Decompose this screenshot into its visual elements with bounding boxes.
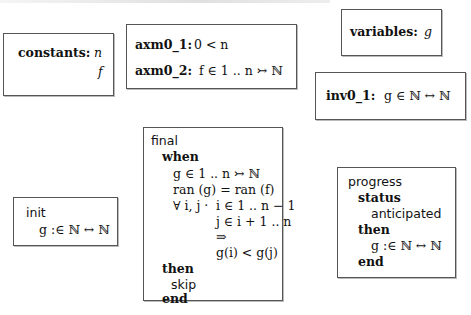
progress-event-name: progress xyxy=(348,174,402,189)
init-event-name: init xyxy=(26,205,46,220)
final-guard-3-quantifier: ∀ i, j · xyxy=(173,198,208,213)
progress-status-value: anticipated xyxy=(371,206,441,221)
final-guard-1: g ∈ 1 .. n ↣ ℕ xyxy=(173,166,260,181)
progress-then-keyword: then xyxy=(358,222,390,237)
variables-label: variables: xyxy=(350,24,418,39)
variable-g: g xyxy=(424,24,432,39)
invariant-1-expr: g ∈ ℕ ↔ ℕ xyxy=(384,88,450,103)
progress-end-keyword: end xyxy=(358,254,384,269)
final-event-box: final when g ∈ 1 .. n ↣ ℕ ran (g) = ran … xyxy=(143,127,283,301)
init-event-box: init g :∈ ℕ ↔ ℕ xyxy=(13,197,118,246)
axiom-2-expr: f ∈ 1 .. n ↣ ℕ xyxy=(199,63,283,78)
final-guard-3-implies: ⇒ xyxy=(216,229,226,244)
final-when-keyword: when xyxy=(162,149,199,164)
variables-box: variables: g xyxy=(341,9,442,56)
invariants-box: inv0_1: g ∈ ℕ ↔ ℕ xyxy=(315,72,466,120)
axiom-1-expr: 0 < n xyxy=(194,37,228,52)
constants-label: constants: xyxy=(18,45,90,60)
constant-f: f xyxy=(98,64,103,79)
final-guard-3-range-j: j ∈ i + 1 .. n xyxy=(216,214,291,229)
progress-event-box: progress status anticipated then g :∈ ℕ … xyxy=(337,167,456,278)
top-edge-artifact xyxy=(0,0,330,3)
final-guard-3-range-i: i ∈ 1 .. n − 1 xyxy=(216,198,295,213)
final-event-name: final xyxy=(151,133,178,148)
final-event-action: skip xyxy=(171,277,196,292)
final-end-keyword: end xyxy=(162,291,188,306)
constants-box: constants: n f xyxy=(3,33,114,96)
axioms-box: axm0_1: 0 < n axm0_2: f ∈ 1 .. n ↣ ℕ xyxy=(126,24,297,89)
constant-n: n xyxy=(94,45,102,60)
axiom-1-label: axm0_1: xyxy=(135,37,192,52)
invariant-1-label: inv0_1: xyxy=(326,88,375,103)
final-guard-3-conclusion: g(i) < g(j) xyxy=(216,245,278,260)
progress-event-action: g :∈ ℕ ↔ ℕ xyxy=(371,238,442,253)
init-event-action: g :∈ ℕ ↔ ℕ xyxy=(39,222,110,237)
progress-status-keyword: status xyxy=(358,190,401,205)
final-then-keyword: then xyxy=(162,261,194,276)
axiom-2-label: axm0_2: xyxy=(135,63,192,78)
final-guard-2: ran (g) = ran (f) xyxy=(173,182,274,197)
